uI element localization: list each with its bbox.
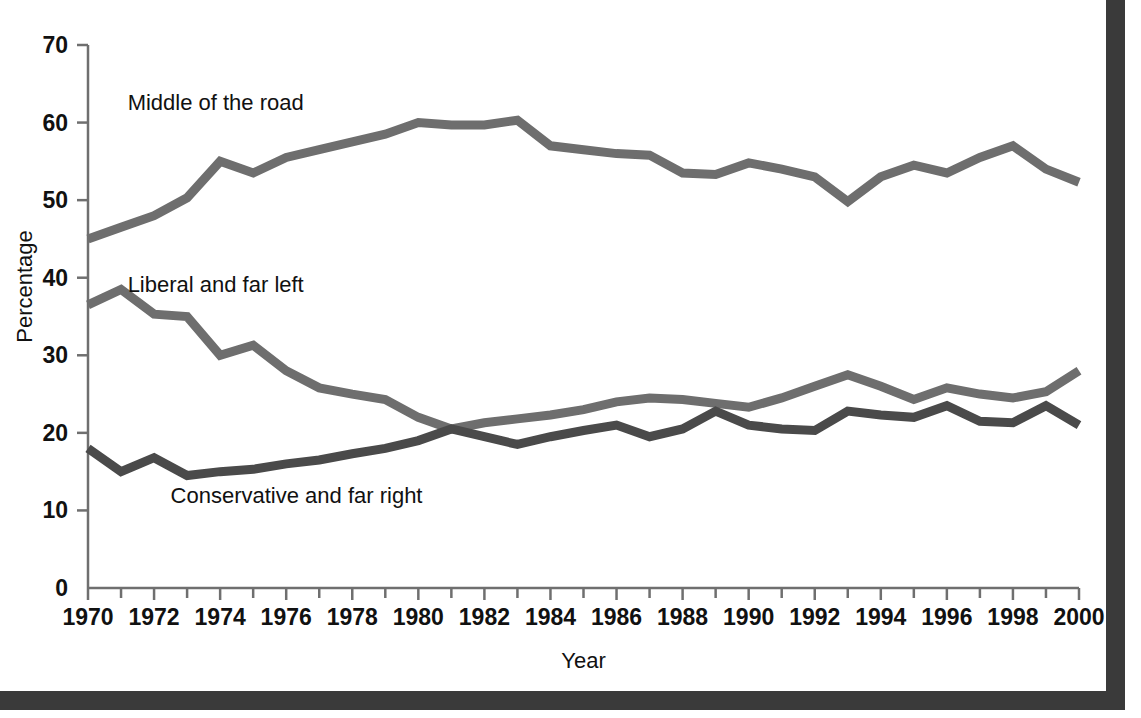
x-tick-label: 1988 xyxy=(657,604,708,630)
series-line-middle-of-the-road xyxy=(88,120,1079,239)
x-tick-label: 1998 xyxy=(987,604,1038,630)
x-tick-label: 1974 xyxy=(195,604,246,630)
x-tick-label: 1976 xyxy=(261,604,312,630)
y-tick-label: 60 xyxy=(42,110,68,136)
x-tick-label: 1980 xyxy=(393,604,444,630)
x-tick-label: 1986 xyxy=(591,604,642,630)
x-tick-label: 1992 xyxy=(789,604,840,630)
x-tick-label: 1978 xyxy=(327,604,378,630)
x-tick-label: 1972 xyxy=(128,604,179,630)
x-tick-label: 1990 xyxy=(723,604,774,630)
line-chart: 0102030405060701970197219741976197819801… xyxy=(0,0,1105,690)
x-tick-label: 1970 xyxy=(62,604,113,630)
y-tick-label: 10 xyxy=(42,497,68,523)
x-tick-label: 2000 xyxy=(1053,604,1104,630)
y-axis-title: Percentage xyxy=(12,230,37,343)
y-tick-label: 70 xyxy=(42,32,68,58)
series-label-conservative-and-far-right: Conservative and far right xyxy=(171,483,423,508)
x-tick-label: 1994 xyxy=(855,604,906,630)
page-frame-bottom-band xyxy=(0,691,1125,710)
chart-page: 0102030405060701970197219741976197819801… xyxy=(0,0,1141,718)
series-line-conservative-and-far-right xyxy=(88,406,1079,476)
x-tick-label: 1984 xyxy=(525,604,576,630)
series-label-middle-of-the-road: Middle of the road xyxy=(128,90,304,115)
y-tick-label: 0 xyxy=(55,575,68,601)
series-label-liberal-and-far-left: Liberal and far left xyxy=(128,272,304,297)
x-tick-label: 1996 xyxy=(921,604,972,630)
plot-area: 0102030405060701970197219741976197819801… xyxy=(0,0,1105,690)
y-tick-label: 50 xyxy=(42,187,68,213)
x-tick-label: 1982 xyxy=(459,604,510,630)
y-tick-label: 40 xyxy=(42,265,68,291)
y-tick-label: 20 xyxy=(42,420,68,446)
page-frame-right-band xyxy=(1106,0,1125,700)
x-axis-title: Year xyxy=(561,648,605,673)
y-tick-label: 30 xyxy=(42,342,68,368)
